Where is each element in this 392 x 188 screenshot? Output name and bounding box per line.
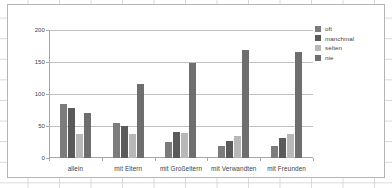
bar[interactable]: [226, 141, 233, 158]
y-tick-label: 50: [38, 123, 45, 129]
bar-group[interactable]: [260, 30, 313, 158]
legend-swatch-icon: [315, 26, 321, 32]
bar[interactable]: [234, 136, 241, 158]
bar[interactable]: [137, 84, 144, 158]
legend-item-label: selten: [325, 44, 342, 51]
legend-item[interactable]: nie: [315, 53, 354, 63]
legend-swatch-icon: [315, 45, 321, 51]
bar[interactable]: [189, 63, 196, 158]
chart-legend: oftmanchmalseltennie: [315, 24, 354, 62]
bar[interactable]: [218, 146, 225, 158]
x-tick-label: mit Verwandten: [211, 165, 256, 172]
bar[interactable]: [121, 126, 128, 158]
bar[interactable]: [165, 142, 172, 158]
bar[interactable]: [242, 50, 249, 158]
bar[interactable]: [68, 108, 75, 158]
legend-item[interactable]: manchmal: [315, 34, 354, 44]
bar[interactable]: [84, 113, 91, 158]
y-tick-label: 100: [35, 91, 45, 97]
bar[interactable]: [113, 123, 120, 158]
y-tick-label: 200: [35, 27, 45, 33]
bar[interactable]: [271, 146, 278, 158]
bar[interactable]: [295, 52, 302, 158]
y-tick-label: 150: [35, 59, 45, 65]
plot-area: 050100150200 alleinmit Elternmit Großelt…: [49, 30, 313, 158]
x-tick-mark: [49, 158, 50, 161]
bar-group[interactable]: [102, 30, 155, 158]
x-tick-label: mit Freunden: [267, 165, 306, 172]
bar[interactable]: [60, 104, 67, 158]
bar[interactable]: [129, 134, 136, 158]
legend-swatch-icon: [315, 35, 321, 41]
bars-layer: [49, 30, 313, 158]
bar-group[interactable]: [49, 30, 102, 158]
legend-item-label: manchmal: [325, 35, 354, 42]
legend-item[interactable]: selten: [315, 43, 354, 53]
x-tick-mark: [313, 158, 314, 161]
x-tick-label: mit Großeltern: [160, 165, 202, 172]
bar[interactable]: [181, 133, 188, 158]
bar[interactable]: [279, 138, 286, 158]
x-tick-mark: [102, 158, 103, 161]
bar[interactable]: [76, 134, 83, 158]
bar-group[interactable]: [155, 30, 208, 158]
x-tick-mark: [207, 158, 208, 161]
x-tick-mark: [260, 158, 261, 161]
chart-object[interactable]: 050100150200 alleinmit Elternmit Großelt…: [7, 4, 385, 178]
legend-item[interactable]: oft: [315, 24, 354, 34]
x-tick-label: allein: [68, 165, 84, 172]
bar-group[interactable]: [207, 30, 260, 158]
legend-swatch-icon: [315, 55, 321, 61]
bar[interactable]: [287, 134, 294, 158]
y-tick-label: 0: [42, 155, 45, 161]
x-tick-label: mit Eltern: [114, 165, 142, 172]
bar[interactable]: [173, 132, 180, 158]
legend-item-label: oft: [325, 25, 332, 32]
legend-item-label: nie: [325, 54, 334, 61]
x-tick-mark: [155, 158, 156, 161]
